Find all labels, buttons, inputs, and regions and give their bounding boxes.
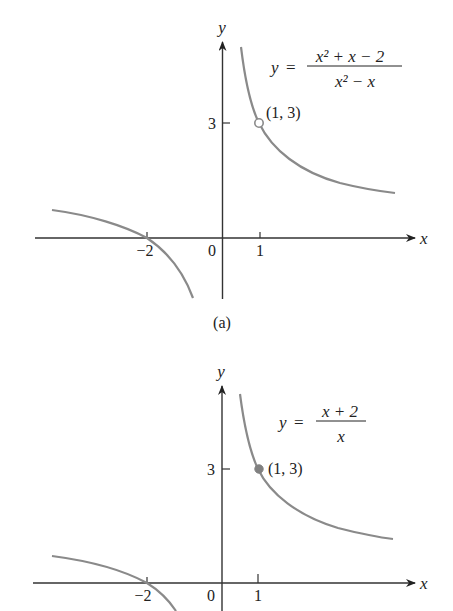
equation-lhs: y (269, 58, 279, 77)
curve-left-branch (52, 210, 193, 298)
panel-caption: (a) (213, 314, 231, 332)
figure: y x −2 0 1 3 (1, 3) y = x² + x − 2 x² − … (0, 0, 453, 611)
curve-right-branch (241, 47, 395, 193)
equation-numerator: x² + x − 2 (315, 47, 385, 66)
x-tick-label-neg2: −2 (134, 587, 151, 604)
x-tick-label-0: 0 (208, 242, 216, 259)
panel-a: y x −2 0 1 3 (1, 3) y = x² + x − 2 x² − … (35, 18, 428, 332)
x-tick-label-0: 0 (207, 587, 215, 604)
equation-equals: = (286, 58, 296, 77)
point-label: (1, 3) (268, 460, 303, 478)
open-point-hole (255, 119, 263, 127)
x-axis-label: x (419, 574, 428, 593)
equation-lhs: y (277, 413, 287, 432)
equation-denominator: x (336, 427, 345, 446)
y-tick-label-3: 3 (207, 461, 215, 478)
y-tick-label-3: 3 (208, 115, 216, 132)
y-axis-label: y (215, 362, 225, 381)
point-label: (1, 3) (266, 104, 301, 122)
x-axis-label: x (419, 229, 428, 248)
equation-a: y = x² + x − 2 x² − x (269, 47, 402, 91)
x-tick-label-neg2: −2 (136, 242, 153, 259)
equation-numerator: x + 2 (321, 402, 359, 421)
equation-b: y = x + 2 x (277, 402, 366, 446)
equation-equals: = (294, 413, 304, 432)
x-tick-label-1: 1 (254, 587, 262, 604)
filled-point (255, 465, 263, 473)
x-tick-label-1: 1 (256, 242, 264, 259)
panel-b: y x −2 0 1 3 (1, 3) y = x + 2 x (33, 362, 428, 611)
equation-denominator: x² − x (334, 72, 376, 91)
y-axis-label: y (216, 18, 226, 37)
